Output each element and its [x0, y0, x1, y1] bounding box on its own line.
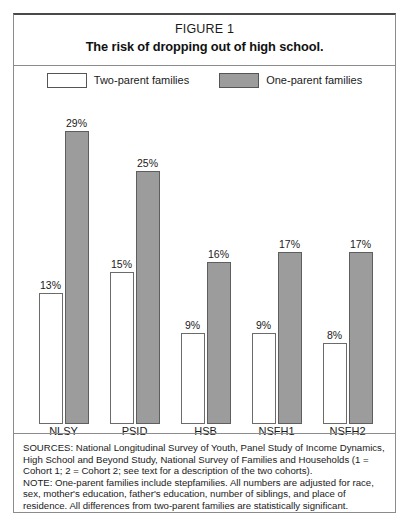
bar-value-label: 16% [208, 248, 229, 260]
figure-number: FIGURE 1 [24, 21, 385, 37]
general-note: NOTE: One-parent families include stepfa… [23, 477, 386, 512]
bar-rect [278, 252, 302, 424]
chart-plot-area: 13% 29% 15% 25% [14, 99, 395, 424]
bar-rect [136, 171, 160, 424]
bar-group-hsb: 9% 16% [170, 99, 241, 424]
chart-plot-inner: 13% 29% 15% 25% [28, 99, 383, 424]
bar-value-label: 17% [350, 238, 371, 250]
bar-rect [349, 252, 373, 424]
legend-item-two-parent: Two-parent families [47, 73, 189, 88]
figure-notes: SOURCES: National Longitudinal Survey of… [14, 437, 395, 512]
bar-nsfh2-one-parent: 17% [349, 99, 373, 424]
bar-value-label: 9% [256, 319, 271, 331]
bar-value-label: 17% [279, 238, 300, 250]
bar-group-nsfh2: 8% 17% [312, 99, 383, 424]
bar-value-label: 13% [40, 279, 61, 291]
figure-container: FIGURE 1 The risk of dropping out of hig… [13, 13, 396, 513]
bar-groups: 13% 29% 15% 25% [28, 99, 383, 424]
bar-value-label: 9% [185, 319, 200, 331]
chart-legend: Two-parent families One-parent families [14, 73, 395, 88]
bar-rect [252, 333, 276, 424]
legend-label-two-parent: Two-parent families [94, 74, 189, 87]
bar-group-nlsy: 13% 29% [28, 99, 99, 424]
bar-rect [39, 293, 63, 424]
bar-hsb-two-parent: 9% [181, 99, 205, 424]
bar-group-psid: 15% 25% [99, 99, 170, 424]
bar-nlsy-one-parent: 29% [65, 99, 89, 424]
bar-nsfh2-two-parent: 8% [323, 99, 347, 424]
sources-note: SOURCES: National Longitudinal Survey of… [23, 442, 386, 477]
title-divider [14, 65, 395, 66]
bar-rect [181, 333, 205, 424]
bar-hsb-one-parent: 16% [207, 99, 231, 424]
bar-rect [110, 272, 134, 424]
bar-psid-one-parent: 25% [136, 99, 160, 424]
notes-divider [14, 433, 395, 434]
legend-label-one-parent: One-parent families [266, 74, 362, 87]
bar-value-label: 8% [327, 329, 342, 341]
bar-nsfh1-two-parent: 9% [252, 99, 276, 424]
bar-psid-two-parent: 15% [110, 99, 134, 424]
page-title: The risk of dropping out of high school. [24, 38, 385, 55]
legend-item-one-parent: One-parent families [219, 73, 362, 88]
bar-value-label: 15% [111, 258, 132, 270]
figure-title-block: FIGURE 1 The risk of dropping out of hig… [14, 15, 395, 60]
bar-rect [207, 262, 231, 424]
bar-rect [323, 343, 347, 424]
bar-nsfh1-one-parent: 17% [278, 99, 302, 424]
bar-group-nsfh1: 9% 17% [241, 99, 312, 424]
bar-rect [65, 131, 89, 424]
bar-nlsy-two-parent: 13% [39, 99, 63, 424]
bar-value-label: 25% [137, 157, 158, 169]
legend-swatch-one-parent [219, 73, 259, 88]
legend-swatch-two-parent [47, 73, 87, 88]
bar-value-label: 29% [66, 117, 87, 129]
